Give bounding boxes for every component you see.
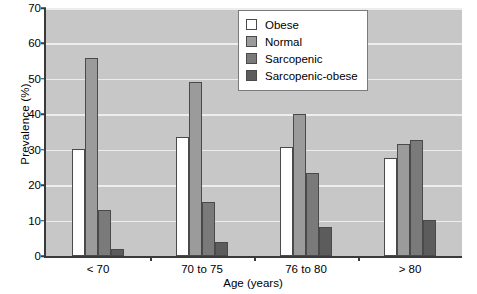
x-tick-mark [358,256,360,261]
bar-sarcopenic[interactable] [202,202,215,256]
y-tick-label: 70 [28,2,41,14]
y-tick-label: 10 [28,215,41,227]
bar-group: > 80 [358,8,462,256]
bar-sarcopenic-obese[interactable] [423,220,436,256]
bar-obese[interactable] [176,137,189,256]
legend-label: Normal [265,36,302,48]
legend-item[interactable]: Sarcopenic-obese [246,67,358,84]
bar-sarcopenic[interactable] [306,173,319,256]
bar-obese[interactable] [72,149,85,256]
bar-sarcopenic-obese[interactable] [319,227,332,256]
bars-container [46,8,150,256]
bar-chart-figure: Prevalence (%) 010203040506070 < 7070 to… [0,0,477,294]
legend: ObeseNormalSarcopenicSarcopenic-obese [238,10,368,91]
bar-group: < 70 [46,8,150,256]
legend-swatch-icon [246,19,257,30]
y-tick-label: 30 [28,144,41,156]
bar-obese[interactable] [280,147,293,256]
x-axis-title: Age (years) [44,277,462,289]
legend-item[interactable]: Obese [246,16,358,33]
bar-normal[interactable] [397,144,410,257]
x-tick-label: > 80 [399,263,422,275]
legend-label: Obese [265,19,299,31]
x-tick-label: < 70 [87,263,110,275]
bar-normal[interactable] [85,58,98,256]
legend-item[interactable]: Normal [246,33,358,50]
bar-sarcopenic[interactable] [410,140,423,256]
bar-sarcopenic-obese[interactable] [215,242,228,256]
x-tick-mark [254,256,256,261]
bars-container [358,8,462,256]
bar-sarcopenic[interactable] [98,210,111,256]
y-tick-label: 40 [28,108,41,120]
y-tick-label: 50 [28,73,41,85]
legend-label: Sarcopenic [265,53,323,65]
bar-normal[interactable] [293,114,306,256]
y-tick-label: 60 [28,37,41,49]
bar-obese[interactable] [384,158,397,256]
legend-swatch-icon [246,53,257,64]
legend-swatch-icon [246,70,257,81]
bar-normal[interactable] [189,82,202,256]
legend-swatch-icon [246,36,257,47]
legend-label: Sarcopenic-obese [265,70,358,82]
x-tick-mark [150,256,152,261]
x-tick-label: 70 to 75 [181,263,223,275]
bar-sarcopenic-obese[interactable] [111,249,124,256]
y-tick-label: 20 [28,179,41,191]
x-tick-label: 76 to 80 [285,263,327,275]
legend-item[interactable]: Sarcopenic [246,50,358,67]
